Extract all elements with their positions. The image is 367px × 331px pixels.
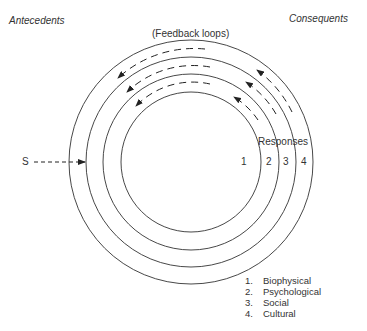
legend-item: 4.Cultural	[245, 308, 321, 319]
responses-label: Responses	[258, 136, 308, 147]
legend: 1.Biophysical 2.Psychological 3.Social 4…	[245, 275, 321, 319]
ring-1-biophysical	[121, 92, 261, 232]
ring-number-3: 3	[283, 156, 289, 167]
stimulus-label: S	[22, 156, 29, 167]
legend-label: Psychological	[263, 286, 321, 297]
feedback-arrow-top-middle	[127, 66, 210, 92]
ring-number-1: 1	[241, 156, 247, 167]
ring-number-4: 4	[301, 156, 307, 167]
legend-item: 3.Social	[245, 297, 321, 308]
legend-number: 4.	[245, 308, 263, 319]
legend-number: 3.	[245, 297, 263, 308]
ring-4-cultural	[69, 40, 313, 284]
legend-item: 1.Biophysical	[245, 275, 321, 286]
legend-number: 1.	[245, 275, 263, 286]
legend-item: 2.Psychological	[245, 286, 321, 297]
legend-label: Biophysical	[263, 275, 311, 286]
legend-label: Social	[263, 297, 289, 308]
ring-3-social	[86, 57, 296, 267]
feedback-arrow-right-outer	[257, 70, 292, 112]
legend-label: Cultural	[263, 308, 296, 319]
legend-number: 2.	[245, 286, 263, 297]
ring-2-psychological	[103, 74, 279, 250]
ring-number-2: 2	[266, 156, 272, 167]
